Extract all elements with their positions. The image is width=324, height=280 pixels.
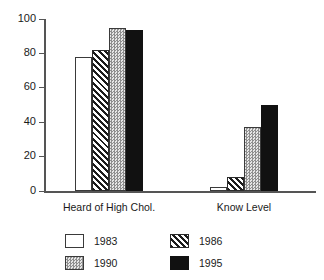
legend-swatch-1995-icon xyxy=(170,256,189,270)
legend-swatch-1990-icon xyxy=(65,256,84,270)
legend-label-1983: 1983 xyxy=(94,235,117,248)
legend-swatch-1986-icon xyxy=(170,234,189,248)
bar-know-1986[interactable] xyxy=(227,177,244,191)
bars-layer xyxy=(0,0,324,200)
legend-label-1986: 1986 xyxy=(199,235,222,248)
legend-label-1990: 1990 xyxy=(94,257,117,270)
bar-chart: 100 80 60 40 20 0 xyxy=(0,0,324,280)
bar-know-1983[interactable] xyxy=(210,187,227,191)
bar-heard-1990[interactable] xyxy=(109,28,126,191)
plot-area: 100 80 60 40 20 0 xyxy=(0,0,324,200)
legend-swatch-1983-icon xyxy=(65,234,84,248)
bar-know-1995[interactable] xyxy=(261,105,278,191)
bar-heard-1995[interactable] xyxy=(126,30,143,191)
x-category-label-know: Know Level xyxy=(194,201,294,213)
legend: 1983 1986 1990 1995 xyxy=(0,234,324,280)
bar-know-1990[interactable] xyxy=(244,127,261,192)
bar-heard-1983[interactable] xyxy=(75,57,92,191)
bar-heard-1986[interactable] xyxy=(92,50,109,191)
x-category-label-heard: Heard of High Chol. xyxy=(49,201,169,213)
legend-label-1995: 1995 xyxy=(199,257,222,270)
